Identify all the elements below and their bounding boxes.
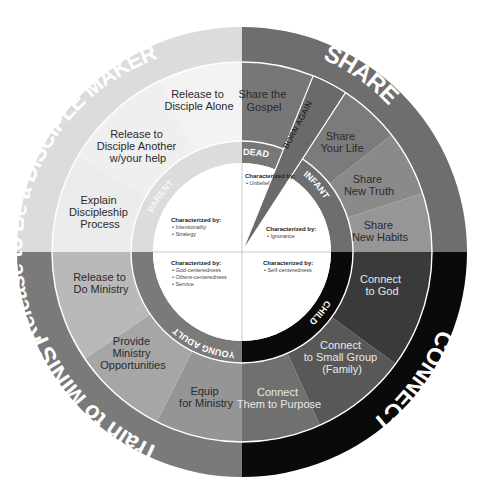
svg-text:• Unbelief: • Unbelief — [246, 180, 270, 186]
characterized-child: Characterized by: • Self-centeredness — [263, 260, 313, 273]
svg-text:Characterized by:: Characterized by: — [245, 173, 295, 179]
svg-text:• Self-centeredness: • Self-centeredness — [264, 267, 312, 273]
svg-text:Characterized by:: Characterized by: — [171, 217, 221, 223]
svg-text:• Others-centeredness: • Others-centeredness — [172, 274, 227, 280]
svg-text:• Ignorance: • Ignorance — [267, 233, 295, 239]
svg-text:• Service: • Service — [172, 281, 194, 287]
svg-text:Characterized by:: Characterized by: — [171, 260, 221, 266]
discipleship-wheel: SHARE CONNECT Train to MINISTER Release … — [0, 0, 483, 503]
label-connect-to-god: Connect to God — [360, 273, 404, 297]
label-share-your-life: Share Your Life — [320, 130, 363, 154]
label-release-to-do-ministry: Release to Do Ministry — [73, 271, 129, 295]
label-release-disciple-alone: Release to Disciple Alone — [164, 88, 233, 112]
svg-text:• Strategy: • Strategy — [172, 231, 196, 237]
svg-text:• God-centeredness: • God-centeredness — [172, 267, 221, 273]
svg-text:Characterized by:: Characterized by: — [266, 226, 316, 232]
svg-text:Characterized by:: Characterized by: — [263, 260, 313, 266]
svg-text:• Intentionality: • Intentionality — [172, 224, 207, 230]
